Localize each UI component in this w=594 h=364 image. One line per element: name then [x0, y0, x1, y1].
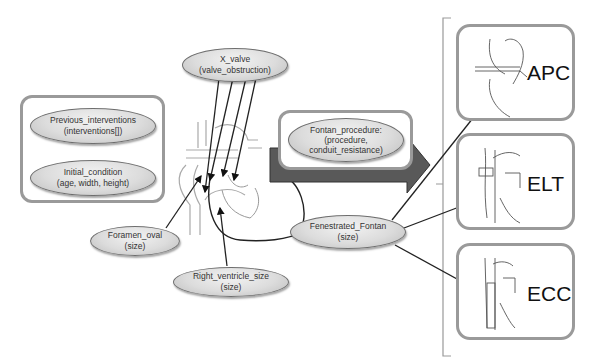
node-title: Foramen_oval: [108, 230, 162, 241]
right-ventricle-size-node: Right_ventricle_size (size): [173, 267, 289, 297]
x-valve-node: X_valve (valve_obstruction): [182, 48, 288, 82]
node-params: (age, width, height): [57, 178, 129, 189]
node-params: (size): [338, 232, 359, 243]
node-title: Fontan_procedure:: [310, 125, 382, 135]
fontan-procedure-node: Fontan_procedure: (procedure, conduit_re…: [288, 118, 404, 162]
heart-elt-icon: [465, 138, 535, 228]
node-title: Previous_interventions: [50, 115, 136, 126]
node-title: Fenestrated_Fontan: [310, 221, 387, 232]
foramen-oval-node: Foramen_oval (size): [90, 226, 180, 256]
option-ecc: ECC: [456, 243, 575, 340]
node-params: (size): [221, 282, 242, 293]
node-params: (interventions[]): [64, 126, 123, 137]
node-params: (valve_obstruction): [199, 65, 271, 76]
option-label: ELT: [527, 172, 564, 196]
previous-interventions-node: Previous_interventions (interventions[]): [30, 108, 156, 144]
node-title: Initial_condition: [64, 167, 123, 178]
node-title: Right_ventricle_size: [193, 271, 269, 282]
node-params: (procedure,: [324, 135, 367, 145]
heart-apc-icon: [465, 29, 535, 119]
initial-condition-node: Initial_condition (age, width, height): [30, 160, 156, 196]
option-apc: APC: [456, 24, 575, 121]
option-label: ECC: [527, 282, 571, 306]
node-title: X_valve: [220, 54, 250, 65]
node-params: conduit_resistance): [309, 145, 383, 155]
fenestrated-fontan-node: Fenestrated_Fontan (size): [290, 215, 406, 249]
node-params: (size): [125, 241, 146, 252]
option-label: APC: [527, 61, 570, 85]
option-elt: ELT: [456, 133, 575, 230]
diagram-canvas: Previous_interventions (interventions[])…: [0, 0, 594, 364]
heart-ecc-icon: [465, 248, 535, 338]
